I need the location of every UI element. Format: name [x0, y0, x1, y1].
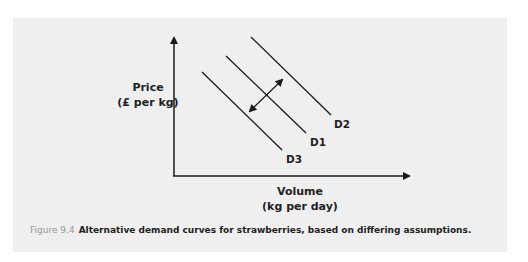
figure-caption: Figure 9.4Alternative demand curves for …: [30, 225, 471, 235]
figure-number: Figure 9.4: [30, 225, 75, 235]
curve-label-d2: D2: [334, 118, 350, 130]
x-axis-label-line1: Volume: [250, 184, 350, 199]
curve-d2: [251, 37, 331, 115]
x-axis-label-line2: (kg per day): [250, 199, 350, 214]
y-axis-label-line1: Price: [110, 80, 186, 95]
curve-d3: [202, 72, 282, 150]
curve-d1: [226, 56, 306, 133]
figure-caption-text: Alternative demand curves for strawberri…: [79, 225, 472, 235]
curve-label-d1: D1: [310, 136, 326, 148]
shift-double-arrow-icon: [250, 80, 282, 111]
y-axis-label: Price (£ per kg): [110, 80, 186, 110]
demand-diagram: [0, 0, 528, 262]
y-axis-label-line2: (£ per kg): [110, 95, 186, 110]
curve-label-d3: D3: [286, 153, 302, 165]
x-axis-label: Volume (kg per day): [250, 184, 350, 214]
